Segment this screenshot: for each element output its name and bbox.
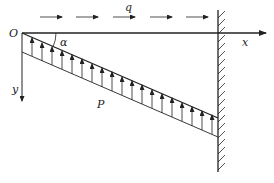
y-axis-label: y [11,83,19,96]
angle-label: α [60,36,68,49]
pressure-arrows [32,38,212,134]
inclined-edge [22,33,218,137]
pressure-label: P [96,98,105,111]
angle-arc [53,33,56,47]
fixed-wall [218,10,225,172]
diagram-canvas: O α x y q P [0,0,274,183]
origin-label: O [9,27,18,40]
q-load-label: q [125,1,132,14]
x-axis-label: x [242,36,249,49]
